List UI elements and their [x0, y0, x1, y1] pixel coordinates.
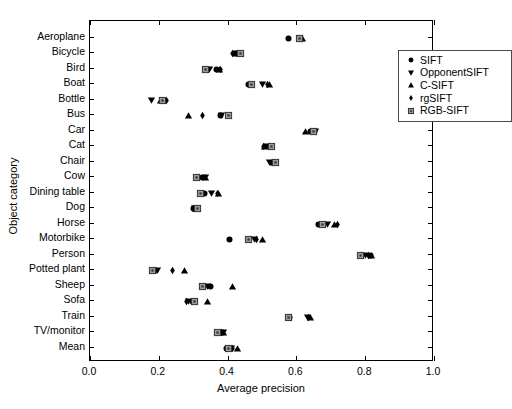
- data-point: [197, 110, 206, 119]
- y-axis-tick-label: Boat: [63, 76, 85, 88]
- data-point: [305, 311, 314, 320]
- y-axis-tick-right: [428, 192, 433, 193]
- data-point: [259, 141, 268, 150]
- y-axis-tick-right: [428, 207, 433, 208]
- y-axis-tick: [89, 300, 94, 301]
- data-point: [283, 311, 292, 320]
- y-axis-tick: [89, 269, 94, 270]
- data-point: [251, 234, 260, 243]
- data-point: [307, 125, 316, 134]
- data-point: [365, 249, 374, 258]
- data-point: [189, 203, 198, 212]
- y-axis-tick-right: [428, 285, 433, 286]
- y-axis-tick-label: Bicycle: [52, 45, 85, 57]
- data-point: [195, 187, 204, 196]
- y-axis-tick-right: [428, 316, 433, 317]
- y-axis-tick-label: Sheep: [55, 278, 85, 290]
- data-point: [283, 32, 292, 41]
- data-point: [294, 32, 303, 41]
- data-point: [205, 187, 214, 196]
- data-point: [152, 265, 161, 274]
- data-point: [264, 156, 273, 165]
- y-axis-tick: [89, 83, 94, 84]
- data-point: [242, 79, 251, 88]
- x-axis-tick-label: 0.0: [82, 365, 97, 377]
- x-axis-title: Average precision: [89, 382, 433, 394]
- data-point: [212, 327, 221, 336]
- data-point: [226, 342, 235, 351]
- legend-label: OpponentSIFT: [420, 67, 489, 78]
- y-axis-tick-right: [428, 176, 433, 177]
- y-axis-tick-right: [428, 130, 433, 131]
- data-point: [316, 218, 325, 227]
- data-point: [190, 203, 199, 212]
- data-point: [293, 32, 302, 41]
- data-point: [187, 203, 196, 212]
- x-axis-tick-top: [159, 20, 160, 25]
- y-axis-tick-right: [428, 238, 433, 239]
- data-point: [230, 48, 239, 57]
- data-point: [222, 110, 231, 119]
- data-point: [300, 125, 309, 134]
- data-point: [249, 234, 258, 243]
- x-axis-tick-top: [228, 20, 229, 25]
- y-axis-tick-label: Sofa: [63, 293, 85, 305]
- y-axis-tick-label: Aeroplane: [37, 30, 85, 42]
- y-axis-tick-label: Cat: [69, 138, 85, 150]
- data-point: [257, 79, 266, 88]
- data-point: [159, 94, 168, 103]
- circle-marker-icon: [404, 55, 417, 66]
- y-axis-tick-label: Motorbike: [39, 231, 85, 243]
- data-point: [215, 63, 224, 72]
- data-point: [213, 187, 222, 196]
- data-point: [192, 203, 201, 212]
- y-axis-tick-label: Bird: [66, 61, 85, 73]
- data-point: [366, 249, 375, 258]
- y-axis-tick-label: Dog: [66, 200, 85, 212]
- data-point: [154, 94, 163, 103]
- data-point: [167, 265, 176, 274]
- x-axis-tick-top: [365, 20, 366, 25]
- y-axis-title: Object category: [7, 136, 19, 256]
- data-point: [189, 296, 198, 305]
- y-axis-tick-right: [428, 347, 433, 348]
- data-point: [201, 296, 210, 305]
- y-axis-tick: [89, 223, 94, 224]
- data-point: [217, 327, 226, 336]
- data-point: [302, 311, 311, 320]
- legend: SIFTOpponentSIFTC-SIFTrgSIFTRGB-SIFT: [398, 50, 512, 122]
- y-axis-tick: [89, 254, 94, 255]
- data-point: [266, 156, 275, 165]
- x-axis-tick-label: 0.8: [357, 365, 372, 377]
- x-axis-tick: [159, 356, 160, 361]
- data-point: [328, 218, 337, 227]
- data-point: [265, 141, 274, 150]
- y-axis-tick-label: Chair: [60, 154, 85, 166]
- y-axis-tick: [89, 37, 94, 38]
- data-point: [296, 32, 305, 41]
- legend-item: OpponentSIFT: [404, 67, 506, 80]
- data-point: [227, 48, 236, 57]
- data-point: [214, 110, 223, 119]
- data-point: [231, 342, 240, 351]
- data-point: [213, 63, 222, 72]
- data-point: [180, 296, 189, 305]
- x-axis-tick-label: 0.4: [219, 365, 234, 377]
- data-point: [187, 296, 196, 305]
- legend-label: rgSIFT: [420, 93, 452, 104]
- x-axis-tick-label: 0.2: [150, 365, 165, 377]
- y-axis-tick: [89, 99, 94, 100]
- data-point: [262, 79, 271, 88]
- data-point: [362, 249, 371, 258]
- triangle-up-marker-icon: [404, 80, 417, 91]
- y-axis-tick-label: Dining table: [30, 185, 85, 197]
- y-axis-tick-right: [428, 254, 433, 255]
- y-axis-tick-right: [428, 223, 433, 224]
- x-axis-tick-label: 1.0: [426, 365, 441, 377]
- data-point: [268, 156, 277, 165]
- data-point: [309, 125, 318, 134]
- y-axis-tick-label: TV/monitor: [34, 324, 85, 336]
- y-axis-tick: [89, 145, 94, 146]
- data-point: [267, 156, 276, 165]
